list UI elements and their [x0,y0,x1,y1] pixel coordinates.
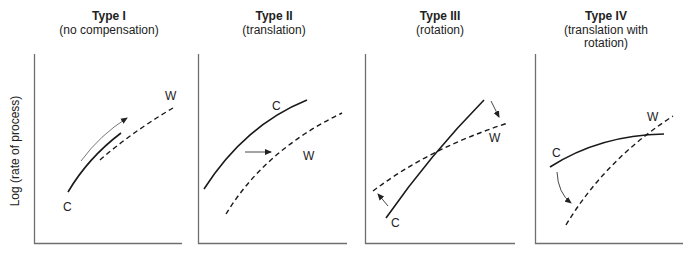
panel-subtitle: (translation) [242,23,305,37]
label-c: C [63,200,72,214]
curve-c [68,133,121,192]
y-axis-label: Log (rate of process) [8,96,22,207]
axes [35,54,183,244]
panel-subtitle: (no compensation) [59,23,158,37]
compensation-types-diagram: Log (rate of process) Type I (no compens… [0,0,689,255]
label-w: W [489,131,501,145]
panel-title: Type I [92,9,126,23]
curve-w [226,113,342,214]
panel-type-iv: Type IV (translation with rotation) C W [536,9,684,244]
curve-w [100,108,173,160]
label-w: W [647,110,659,124]
panel-subtitle-line2: rotation) [584,36,628,50]
label-c: C [391,216,400,230]
label-w: W [303,149,315,163]
translation-rotation-arrow [557,172,571,203]
label-c: C [552,146,561,160]
label-c: C [272,99,281,113]
panel-subtitle: (rotation) [416,23,464,37]
panel-title: Type IV [585,9,627,23]
panel-type-ii: Type II (translation) C W [199,9,348,244]
curve-c [550,134,664,167]
panel-title: Type II [255,9,292,23]
curve-w [566,116,673,225]
panel-type-i: Type I (no compensation) C W [35,9,183,244]
label-w: W [165,89,177,103]
curve-w [373,123,508,191]
axes [199,54,348,244]
shift-arrow [81,118,127,161]
rotation-arrow-top [491,101,499,117]
rotation-arrow-bottom [378,194,388,206]
panel-title: Type III [420,9,460,23]
panel-type-iii: Type III (rotation) C W [366,9,516,244]
curve-c [204,100,307,189]
panel-subtitle: (translation with [564,23,648,37]
curve-c [386,100,484,218]
